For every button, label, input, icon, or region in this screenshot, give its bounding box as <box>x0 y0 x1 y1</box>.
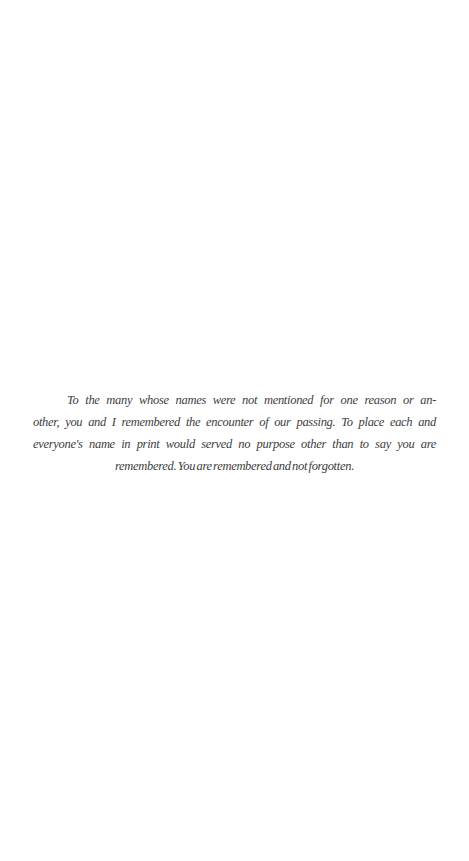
dedication-line-3: everyone's name in print would served no… <box>33 433 436 455</box>
dedication-line-4: remembered. You are remembered and not f… <box>33 455 436 477</box>
dedication-line-2: other, you and I remembered the encounte… <box>33 411 436 433</box>
book-page: To the many whose names were not mention… <box>0 0 469 861</box>
dedication-line-1: To the many whose names were not mention… <box>33 389 436 411</box>
dedication-paragraph: To the many whose names were not mention… <box>33 389 436 477</box>
